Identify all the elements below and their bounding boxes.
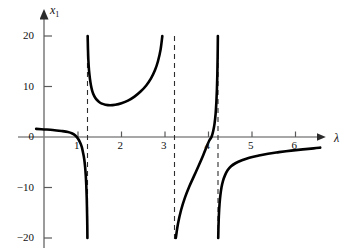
y-tick-label-10: 10 xyxy=(8,81,34,92)
y-axis-label: x1 xyxy=(50,4,59,19)
figure-container: 20 10 0 −10 −20 1 2 3 4 5 6 λ x1 xyxy=(0,0,359,252)
y-axis-label-subscript: 1 xyxy=(55,10,59,19)
y-tick-label-minus-20: −20 xyxy=(2,232,34,243)
x-tick-label-6: 6 xyxy=(292,140,298,151)
y-tick-label-minus-10: −10 xyxy=(2,182,34,193)
x-tick-label-1: 1 xyxy=(74,140,80,151)
y-tick-label-0: 0 xyxy=(8,131,34,142)
plot-canvas xyxy=(0,0,359,252)
x-tick-label-5: 5 xyxy=(248,140,254,151)
x-tick-label-3: 3 xyxy=(161,140,167,151)
curve-branch-4 xyxy=(218,148,320,238)
asymptote-group xyxy=(88,36,219,240)
x-tick-label-4: 4 xyxy=(205,140,211,151)
curve-branch-2 xyxy=(88,36,163,105)
x-axis-label: λ xyxy=(334,132,339,144)
y-tick-label-20: 20 xyxy=(8,30,34,41)
x-tick-label-2: 2 xyxy=(118,140,124,151)
